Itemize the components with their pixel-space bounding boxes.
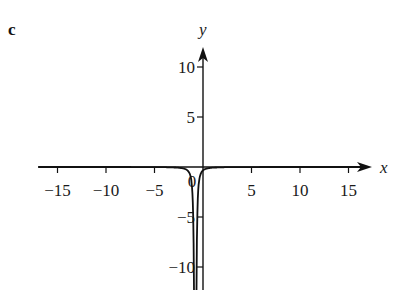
x-tick-label: 5 [247,181,256,200]
x-tick-label: 15 [340,181,357,200]
y-tick-label: 5 [187,108,196,127]
chart-plot: xy−15−10−5510150105−5−10 [0,0,408,304]
x-axis-label: x [379,158,388,177]
x-tick-label: 10 [292,181,309,200]
y-tick-label: −10 [168,258,195,277]
y-tick-label: 10 [178,58,195,77]
y-axis-label: y [197,20,207,39]
x-tick-label: −15 [44,181,71,200]
x-tick-label: −10 [93,181,120,200]
x-tick-label: −5 [145,181,163,200]
